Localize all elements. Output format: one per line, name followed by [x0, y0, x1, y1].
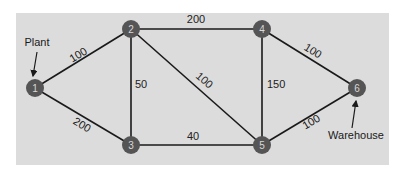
node-3: 3 [122, 136, 140, 154]
node-6-label: 6 [354, 83, 360, 94]
diagram-panel [16, 13, 389, 165]
weight-4-5: 150 [267, 78, 285, 90]
node-4: 4 [253, 20, 271, 38]
weight-3-5: 40 [187, 130, 199, 142]
node-2-label: 2 [128, 24, 134, 35]
node-1-label: 1 [32, 83, 38, 94]
node-5: 5 [253, 136, 271, 154]
node-4-label: 4 [259, 24, 265, 35]
warehouse-label: Warehouse [328, 129, 384, 141]
network-diagram: 100 200 50 200 100 40 150 100 100 1 2 3 … [0, 0, 404, 173]
weight-2-3: 50 [135, 78, 147, 90]
node-2: 2 [122, 20, 140, 38]
plant-label: Plant [24, 36, 49, 48]
diagram-svg: 100 200 50 200 100 40 150 100 100 1 2 3 … [0, 0, 404, 173]
node-5-label: 5 [259, 140, 265, 151]
node-6: 6 [348, 79, 366, 97]
weight-2-4: 200 [187, 13, 205, 25]
node-1: 1 [26, 79, 44, 97]
node-3-label: 3 [128, 140, 134, 151]
